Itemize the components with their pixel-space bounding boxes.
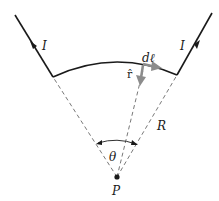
label-point-p: P	[111, 184, 121, 198]
current-arrow-right-icon	[194, 40, 200, 49]
label-radius: R	[156, 119, 166, 133]
label-angle: θ	[109, 150, 117, 164]
point-p-dot	[114, 174, 119, 179]
radius-line-left	[53, 77, 117, 177]
diagram-canvas: I I dℓ r̂ R θ P	[0, 0, 219, 201]
angle-arrow-right-icon	[131, 140, 138, 145]
label-current-left: I	[41, 39, 47, 53]
rhat-vector	[136, 65, 146, 86]
arc-wire	[53, 62, 177, 77]
radius-line-right	[117, 75, 177, 177]
rhat-arrow-icon	[136, 75, 146, 86]
angle-arrow-left-icon	[96, 140, 102, 145]
label-dl: dℓ	[142, 51, 155, 65]
label-r-hat: r̂	[127, 68, 133, 81]
left-wire	[15, 15, 53, 77]
label-current-right: I	[179, 39, 185, 53]
radius-line-middle	[117, 70, 143, 177]
angle-arc	[96, 140, 138, 145]
